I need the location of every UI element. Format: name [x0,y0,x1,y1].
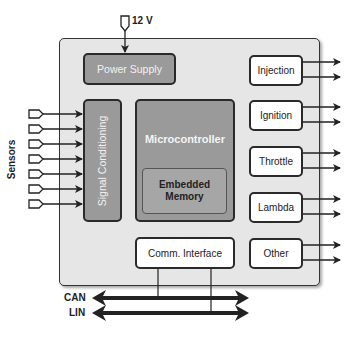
embedded-memory-label-2: Memory [159,191,210,204]
signal-conditioning-label: Signal Conditioning [97,115,109,205]
supply-voltage-label: 12 V [132,15,153,26]
can-bus-label: CAN [64,292,86,303]
power-supply-block: Power Supply [83,53,176,85]
other-label: Other [263,248,288,259]
signal-conditioning-block: Signal Conditioning [83,99,122,222]
comm-interface-block: Comm. Interface [135,237,235,269]
output-lambda: Lambda [249,192,303,223]
sensors-label: Sensors [6,140,18,180]
output-throttle: Throttle [249,146,303,177]
embedded-memory-label-1: Embedded [159,179,210,192]
microcontroller-label: Microcontroller [145,133,225,145]
output-other: Other [249,238,303,269]
ignition-label: Ignition [260,110,292,121]
lambda-label: Lambda [258,202,294,213]
comm-interface-label: Comm. Interface [148,248,222,259]
embedded-memory-block: Embedded Memory [142,168,227,214]
power-supply-label: Power Supply [97,63,162,75]
injection-label: Injection [257,65,294,76]
throttle-label: Throttle [259,156,293,167]
lin-bus-label: LIN [69,307,85,318]
output-ignition: Ignition [249,100,303,131]
output-injection: Injection [249,55,303,86]
sensors-label-text: Sensors [6,140,17,179]
